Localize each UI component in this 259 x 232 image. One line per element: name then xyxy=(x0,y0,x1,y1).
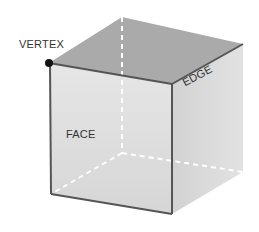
vertex-dot xyxy=(45,59,53,67)
edge-front-left xyxy=(50,63,51,194)
vertex-label: VERTEX xyxy=(19,38,64,50)
face-label: FACE xyxy=(66,128,96,140)
cube-diagram xyxy=(0,0,259,232)
